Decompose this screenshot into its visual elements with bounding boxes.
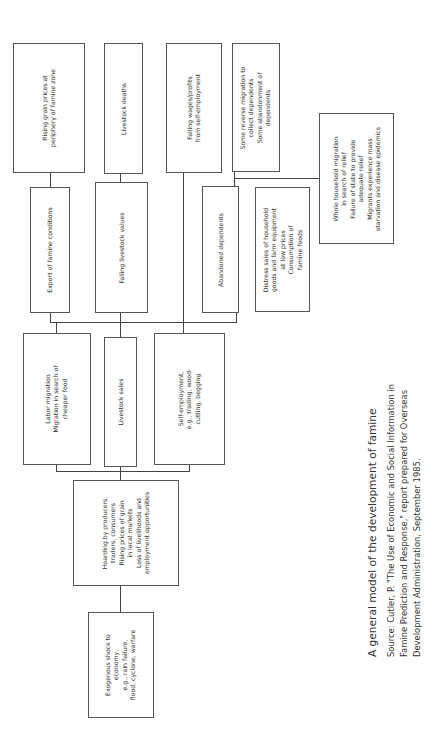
connector-livestock-up — [120, 313, 121, 337]
connector-abandoned-down — [236, 313, 237, 323]
node-text: Livestock sales — [116, 379, 124, 426]
connector-labor-down — [56, 465, 57, 472]
node-falling-wages: Falling wages/profits from self-employme… — [166, 43, 222, 173]
node-text: Hoarding by producers, — [101, 492, 109, 574]
connector-reverse-whole — [234, 178, 319, 179]
node-self-employment: Self-employment, e.g., trading, wood- cu… — [154, 333, 225, 465]
connector-bar-level2-bottom — [56, 471, 190, 472]
node-text: Loss of livelihoods and — [134, 492, 142, 574]
node-text: Labor migration — [44, 365, 52, 432]
node-text: Whole household migration — [331, 127, 339, 231]
node-whole-household-migration: Whole household migration in search of r… — [319, 113, 394, 244]
node-text: from self-employment — [194, 74, 202, 142]
node-text: Distress sales of household — [261, 207, 269, 291]
connector-hoarding-up — [120, 472, 121, 480]
node-text: Migrants experience mass — [365, 127, 373, 231]
node-text: Migration in search of — [53, 365, 61, 432]
node-text: starvation and disease epidemics — [373, 127, 381, 231]
caption-title: A general model of the development of fa… — [366, 409, 378, 657]
node-text: e.g., trading, wood- — [185, 369, 193, 430]
connector-self-down — [189, 465, 190, 472]
caption-source-line-2: Famine Prediction and Response," report … — [399, 390, 409, 657]
node-livestock-deaths: Livestock deaths — [104, 43, 143, 174]
node-text: Falling livestock values — [117, 212, 125, 283]
connector-bar-level3-bottom — [50, 322, 237, 323]
node-text: flood, cyclone, warfare — [129, 630, 137, 701]
node-text: Self-employment, — [177, 369, 185, 430]
node-export-famine: Export of famine conditions — [30, 187, 70, 313]
node-text: cheaper food — [61, 365, 69, 432]
connector-labor-up — [56, 322, 57, 333]
connector-export-grain — [50, 173, 51, 187]
connector-shock-hoarding — [120, 586, 121, 612]
node-text: Rising grain prices at — [41, 69, 49, 147]
node-text: adequate relief — [357, 127, 365, 231]
node-distress-sales: Distress sales of household goods and fa… — [255, 187, 310, 312]
node-text: Exogenous shock to — [104, 630, 112, 701]
node-text: Livestock deaths — [119, 82, 127, 134]
node-text: periphery of famine zone — [49, 69, 57, 147]
node-text: in search of relief — [340, 127, 348, 231]
node-text: employment opportunities — [143, 492, 151, 574]
node-text: Failure of state to provide — [348, 127, 356, 231]
connector-export-down — [50, 313, 51, 323]
connector-self-up — [183, 173, 184, 333]
node-text: Falling wages/profits — [186, 74, 194, 142]
caption-source-line-3: Development Administration, September 19… — [412, 458, 422, 657]
node-text: collect dependents — [248, 66, 256, 149]
node-rising-grain-prices: Rising grain prices at periphery of fami… — [13, 43, 85, 173]
node-labor-migration: Labor migration Migration in search of c… — [23, 333, 91, 465]
connector-livestock-down — [120, 467, 121, 472]
node-text: traders, consumers — [109, 492, 117, 574]
node-reverse-migration: Some reverse migration to collect depend… — [232, 43, 280, 172]
node-hoarding: Hoarding by producers, traders, consumer… — [73, 480, 179, 586]
node-text: Some abandonment of — [256, 66, 264, 149]
node-text: in local markets — [126, 492, 134, 574]
node-text: Some reverse migration to — [239, 66, 247, 149]
node-text: cutting, begging — [194, 369, 202, 430]
node-text: Abandoned dependents — [216, 213, 224, 287]
node-abandoned-dependents: Abandoned dependents — [202, 186, 239, 313]
node-exogenous-shock: Exogenous shock to economy, e.g., rain f… — [88, 612, 154, 718]
caption-source-line-1: Source: Cutler, P. "The Use of Economic … — [386, 384, 396, 657]
node-text: e.g., rain failure, — [121, 630, 129, 701]
node-text: famine foods — [295, 207, 303, 291]
node-text: Consumption of — [287, 207, 295, 291]
node-text: at low prices — [278, 207, 286, 291]
node-text: Rising prices of grain — [118, 492, 126, 574]
node-text: economy, — [113, 630, 121, 701]
node-falling-livestock-values: Falling livestock values — [95, 182, 148, 313]
node-text: dependents — [264, 66, 272, 149]
connector-values-deaths — [120, 174, 121, 182]
node-text: Export of famine conditions — [46, 207, 54, 292]
node-text: goods and farm equipment — [270, 207, 278, 291]
node-livestock-sales: Livestock sales — [104, 337, 137, 467]
